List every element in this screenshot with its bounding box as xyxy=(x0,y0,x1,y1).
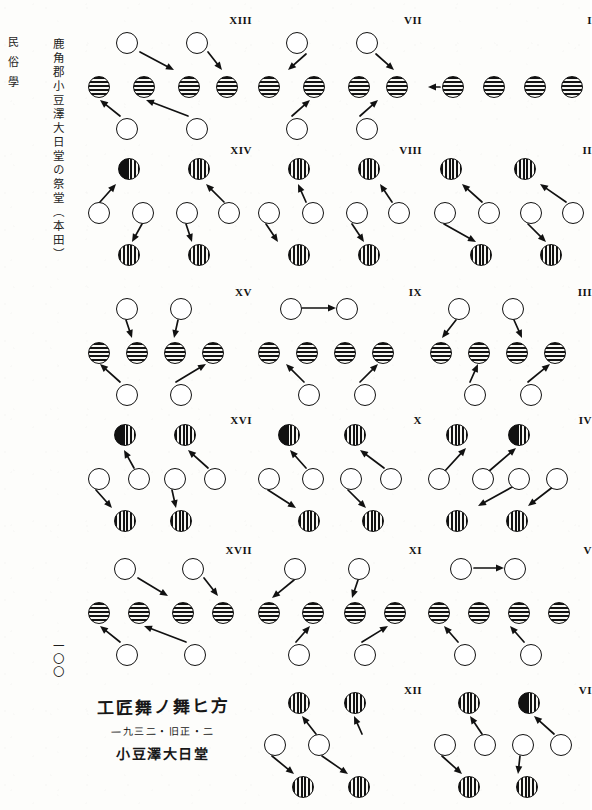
panel-label: XIII xyxy=(229,14,252,26)
dancer-token-hband xyxy=(258,342,280,364)
dancer-token-vband xyxy=(540,244,562,266)
dancer-token-open xyxy=(116,118,138,140)
panel-x: X xyxy=(258,414,418,544)
dancer-token-open xyxy=(454,644,476,666)
dancer-token-half xyxy=(518,692,540,714)
panel-i: I xyxy=(428,14,588,144)
dancer-token-open xyxy=(434,734,456,756)
dancer-token-open xyxy=(464,384,486,406)
panel-label: XVI xyxy=(230,414,252,426)
dancer-token-hband xyxy=(126,342,148,364)
dancer-token-open xyxy=(520,384,542,406)
dancer-token-open xyxy=(298,384,320,406)
dancer-token-vband xyxy=(440,158,462,180)
dancer-token-hband xyxy=(258,76,280,98)
panel-xiii: XIII xyxy=(88,14,248,144)
panel-vii: VII xyxy=(258,14,418,144)
dancer-token-vband xyxy=(362,510,384,532)
dancer-token-hband xyxy=(296,342,318,364)
dancer-token-open xyxy=(562,202,584,224)
dancer-token-open xyxy=(354,644,376,666)
dancer-token-hband xyxy=(442,76,464,98)
dancer-token-open xyxy=(182,558,204,580)
dancer-token-hband xyxy=(302,602,324,624)
dancer-token-vband xyxy=(344,424,366,446)
dancer-token-hband xyxy=(372,342,394,364)
panel-iv: IV xyxy=(428,414,588,544)
dancer-token-hband xyxy=(468,602,490,624)
panel-xiv: XIV xyxy=(88,144,248,274)
panel-iii: III xyxy=(428,286,588,416)
dancer-token-open xyxy=(428,468,450,490)
panel-label: XVII xyxy=(226,544,252,556)
dancer-token-open xyxy=(354,384,376,406)
dancer-token-hband xyxy=(384,602,406,624)
dancer-token-vband xyxy=(358,244,380,266)
dancer-token-hband xyxy=(216,76,238,98)
panel-xi: XI xyxy=(258,544,418,674)
dancer-token-hband xyxy=(561,76,583,98)
dancer-token-open xyxy=(286,118,308,140)
panel-label: XV xyxy=(235,286,252,298)
dancer-token-open xyxy=(450,558,472,580)
dancer-token-open xyxy=(88,202,110,224)
dancer-token-vband xyxy=(118,244,140,266)
dancer-token-vband xyxy=(298,510,320,532)
dancer-token-hband xyxy=(483,76,505,98)
dancer-token-hband xyxy=(258,602,280,624)
panel-vi: VI xyxy=(428,684,588,810)
dancer-token-hband xyxy=(212,602,234,624)
dancer-token-vband xyxy=(348,776,370,798)
dancer-token-open xyxy=(170,384,192,406)
panel-ii: II xyxy=(428,144,588,274)
dancer-token-vband xyxy=(288,244,310,266)
dancer-token-open xyxy=(284,558,306,580)
dancer-token-hband xyxy=(178,76,200,98)
dancer-token-hband xyxy=(544,342,566,364)
caption-line-1: 工匠舞ノ舞ヒ方 xyxy=(78,696,248,719)
dancer-token-open xyxy=(258,202,280,224)
dancer-token-hband xyxy=(88,76,110,98)
dancer-token-open xyxy=(504,558,526,580)
dancer-token-hband xyxy=(524,76,546,98)
dancer-token-hband xyxy=(303,76,325,98)
dancer-token-half xyxy=(508,424,530,446)
dancer-token-open xyxy=(472,468,494,490)
dancer-token-hband xyxy=(508,602,530,624)
dancer-token-half xyxy=(118,158,140,180)
panel-label: X xyxy=(414,414,422,426)
dancer-token-vband xyxy=(174,424,196,446)
dancer-token-open xyxy=(520,644,542,666)
dancer-token-open xyxy=(502,298,524,320)
dancer-token-open xyxy=(512,734,534,756)
dancer-token-open xyxy=(474,734,496,756)
dancer-token-open xyxy=(478,202,500,224)
dancer-token-open xyxy=(356,118,378,140)
dancer-token-vband xyxy=(188,244,210,266)
dancer-token-open xyxy=(388,202,410,224)
dancer-token-hband xyxy=(172,602,194,624)
dancer-token-open xyxy=(114,558,136,580)
dancer-token-open xyxy=(116,384,138,406)
panel-xvii: XVII xyxy=(88,544,248,674)
dancer-token-vband xyxy=(514,158,536,180)
dancer-token-open xyxy=(116,644,138,666)
dancer-token-open xyxy=(264,734,286,756)
caption-line-3: 小豆澤大日堂 xyxy=(78,742,248,764)
dancer-token-hband xyxy=(164,342,186,364)
dancer-token-vband xyxy=(516,776,538,798)
dancer-token-open xyxy=(280,298,302,320)
dancer-token-vband xyxy=(288,158,310,180)
dancer-token-vband xyxy=(344,692,366,714)
dancer-token-open xyxy=(186,118,208,140)
panel-ix: IX xyxy=(258,286,418,416)
panel-label: XII xyxy=(404,684,422,696)
dancer-token-open xyxy=(434,202,456,224)
panel-label: VIII xyxy=(399,144,422,156)
dancer-token-half xyxy=(278,424,300,446)
dancer-token-open xyxy=(550,734,572,756)
dancer-token-open xyxy=(132,202,154,224)
dancer-token-open xyxy=(308,734,330,756)
dancer-token-vband xyxy=(470,244,492,266)
